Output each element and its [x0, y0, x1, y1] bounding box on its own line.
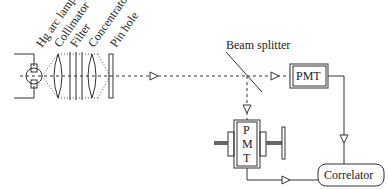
label-pmt-m: M — [242, 137, 253, 151]
signal-arrow-1 — [340, 135, 348, 143]
label-pmt-t: T — [243, 151, 251, 165]
signal-arrow-2 — [282, 176, 290, 184]
label-pmt-p: P — [243, 123, 250, 137]
adjust-knob — [282, 127, 285, 159]
beam-splitter — [226, 52, 262, 92]
screw-right — [266, 141, 282, 145]
beam-arrow-3 — [243, 105, 251, 113]
beam-arrow-2 — [271, 72, 279, 80]
screw-left — [214, 141, 228, 145]
beam-arrow-1 — [150, 72, 158, 80]
label-pmt-top: PMT — [296, 69, 321, 83]
label-correlator: Correlator — [324, 168, 373, 182]
label-beam-splitter: Beam splitter — [226, 38, 290, 52]
optical-setup-diagram: Hg arc lamp Collimator Filter Concentrat… — [0, 0, 388, 189]
